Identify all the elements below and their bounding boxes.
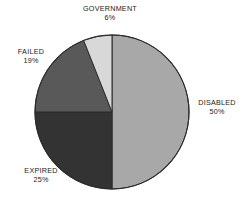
pie-label-expired-value: 25%	[10, 175, 72, 184]
pie-label-expired: EXPIRED 25%	[10, 166, 72, 184]
pie-label-government-name: GOVERNMENT	[62, 4, 158, 13]
pie-label-failed-value: 19%	[2, 56, 60, 65]
pie-chart-figure: GOVERNMENT 6% FAILED 19% EXPIRED 25% DIS…	[0, 0, 250, 204]
pie-label-disabled-value: 50%	[186, 107, 248, 116]
pie-label-failed-name: FAILED	[2, 47, 60, 56]
pie-label-disabled-name: DISABLED	[186, 98, 248, 107]
pie-slice-disabled[interactable]	[112, 35, 189, 189]
pie-label-failed: FAILED 19%	[2, 47, 60, 65]
pie-label-expired-name: EXPIRED	[10, 166, 72, 175]
pie-label-government-value: 6%	[62, 13, 158, 22]
pie-label-government: GOVERNMENT 6%	[62, 4, 158, 22]
pie-label-disabled: DISABLED 50%	[186, 98, 248, 116]
